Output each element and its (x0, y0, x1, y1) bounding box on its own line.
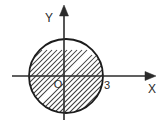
x-tick-label-3: 3 (104, 79, 110, 91)
coordinate-plane-figure: Y X O 3 (0, 0, 165, 132)
x-axis-label: X (148, 82, 156, 96)
figure-container: Y X O 3 (0, 0, 165, 132)
origin-label: O (54, 78, 63, 90)
y-axis-label: Y (45, 11, 53, 25)
